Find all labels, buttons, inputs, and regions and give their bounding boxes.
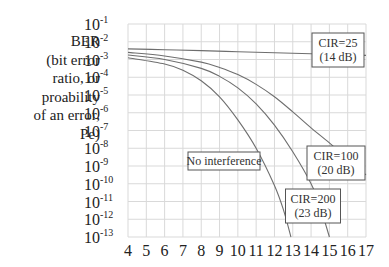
y-tick-label: 10-8 — [84, 138, 108, 157]
x-tick-label: 6 — [161, 242, 169, 259]
y-tick-label: 10-12 — [84, 209, 113, 228]
y-tick-label: 10-9 — [84, 156, 108, 175]
series-annotations: CIR=25(14 dB)CIR=100(20 dB)CIR=200(23 dB… — [187, 33, 365, 223]
x-tick-label: 16 — [340, 242, 356, 259]
y-tick-label: 10-7 — [84, 121, 108, 140]
x-tick-label: 7 — [179, 242, 187, 259]
annotation-text: CIR=25 — [319, 36, 358, 50]
annotation-text: No interference — [187, 154, 262, 168]
x-tick-label: 4 — [124, 242, 132, 259]
x-tick-label: 12 — [266, 242, 282, 259]
annotation-text: CIR=100 — [314, 149, 359, 163]
ber-chart: 10-110-210-310-410-510-610-710-810-910-1… — [0, 0, 389, 267]
x-tick-label: 11 — [248, 242, 263, 259]
y-tick-label: 10-6 — [84, 103, 108, 122]
x-tick-label: 8 — [197, 242, 205, 259]
y-tick-label: 10-11 — [84, 192, 113, 211]
y-tick-label: 10-13 — [84, 227, 113, 246]
series-annotation-0: CIR=25(14 dB) — [312, 33, 364, 67]
y-tick-label: 10-10 — [84, 174, 113, 193]
x-tick-label: 5 — [142, 242, 150, 259]
x-tick-labels: 4567891011121314151617 — [124, 242, 374, 259]
y-tick-label: 10-4 — [84, 67, 108, 86]
y-tick-label: 10-5 — [84, 85, 108, 104]
annotation-text: (20 dB) — [318, 163, 355, 177]
y-tick-labels: 10-110-210-310-410-510-610-710-810-910-1… — [84, 14, 113, 246]
annotation-text: CIR=200 — [291, 192, 336, 206]
series-annotation-2: CIR=200(23 dB) — [286, 189, 341, 223]
x-tick-label: 9 — [216, 242, 224, 259]
y-tick-label: 10-2 — [84, 32, 108, 51]
series-annotation-3: No interference — [187, 152, 262, 170]
annotation-text: (14 dB) — [320, 50, 357, 64]
x-tick-label: 10 — [230, 242, 246, 259]
x-tick-label: 15 — [321, 242, 337, 259]
annotation-text: (23 dB) — [295, 206, 332, 220]
x-tick-label: 14 — [303, 242, 319, 259]
y-tick-label: 10-3 — [84, 50, 108, 69]
x-tick-label: 17 — [358, 242, 374, 259]
y-tick-label: 10-1 — [84, 14, 108, 33]
series-line-3 — [128, 58, 291, 237]
x-tick-label: 13 — [285, 242, 301, 259]
series-annotation-1: CIR=100(20 dB) — [307, 146, 365, 180]
